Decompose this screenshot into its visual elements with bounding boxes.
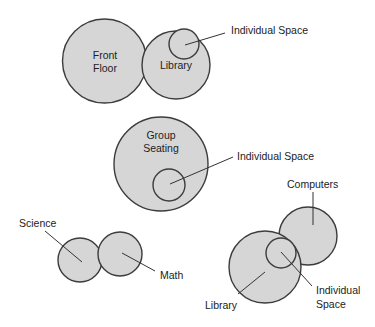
callout-individual-space: Individual Space — [231, 24, 308, 36]
group-science-math: Science Math — [19, 217, 184, 282]
label-seating: Seating — [143, 142, 179, 154]
callout-space: Space — [316, 298, 346, 310]
group-computers-library: Computers Individual Space Library — [205, 178, 360, 311]
group-group-seating: Group Seating Individual Space — [114, 117, 314, 211]
callout-library: Library — [205, 299, 238, 311]
label-front: Front — [93, 49, 118, 61]
callout-science: Science — [19, 217, 57, 229]
group-front-floor-library: Front Floor Library Individual Space — [63, 19, 309, 103]
circle-front-floor — [63, 19, 147, 103]
label-library: Library — [160, 59, 193, 71]
label-floor: Floor — [93, 62, 117, 74]
venn-diagram: Front Floor Library Individual Space Gro… — [0, 0, 375, 327]
circle-individual-space — [153, 169, 185, 201]
callout-individual: Individual — [316, 284, 360, 296]
callout-math: Math — [160, 269, 184, 281]
callout-computers: Computers — [287, 178, 338, 190]
callout-individual-space: Individual Space — [237, 150, 314, 162]
circle-math — [98, 232, 142, 276]
label-group: Group — [146, 129, 175, 141]
circle-individual-space — [169, 29, 199, 59]
